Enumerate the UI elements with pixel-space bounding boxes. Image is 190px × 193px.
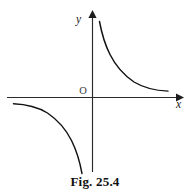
y-axis-arrow-icon	[88, 10, 96, 18]
plot-area: y x O	[0, 0, 190, 176]
x-axis-label: x	[175, 98, 182, 110]
hyperbola-branch-upper-right	[100, 22, 169, 92]
figure-caption: Fig. 25.4	[0, 174, 190, 190]
y-axis-label: y	[75, 13, 82, 26]
origin-label: O	[79, 85, 87, 96]
figure-container: y x O Fig. 25.4	[0, 0, 190, 193]
coordinate-plot: y x O	[0, 0, 190, 176]
hyperbola-branch-lower-left	[14, 104, 83, 174]
